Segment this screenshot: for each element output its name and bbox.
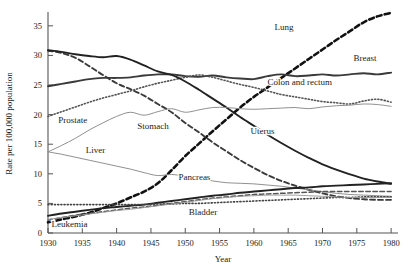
y-axis-title: Rate per 100,000 population — [4, 72, 14, 175]
cancer-mortality-chart: 0510152025303519301935194019451950195519… — [0, 0, 409, 269]
x-tick-label: 1950 — [177, 238, 194, 248]
x-tick-label: 1960 — [245, 238, 262, 248]
series-line-other-gray-lower — [48, 195, 391, 219]
x-tick-label: 1980 — [383, 238, 400, 248]
series-label-colon-and-rectum: Colon and rectum — [268, 77, 333, 87]
chart-canvas: 0510152025303519301935194019451950195519… — [0, 0, 409, 269]
x-tick-label: 1975 — [348, 238, 365, 248]
y-tick-label: 15 — [34, 139, 43, 149]
y-tick-label: 10 — [34, 169, 43, 179]
y-tick-label: 35 — [34, 21, 43, 31]
y-tick-label: 30 — [34, 50, 43, 60]
series-label-bladder: Bladder — [189, 207, 218, 217]
x-tick-label: 1940 — [108, 238, 125, 248]
series-label-stomach: Stomach — [137, 121, 169, 131]
x-axis-title: Year — [215, 254, 232, 264]
x-tick-label: 1935 — [74, 238, 91, 248]
series-label-leukemia: Leukemia — [51, 219, 87, 229]
y-tick-label: 25 — [34, 80, 43, 90]
series-label-breast: Breast — [353, 53, 376, 63]
series-line-uterus — [48, 50, 391, 184]
series-lines — [48, 13, 391, 223]
series-label-prostate: Prostate — [58, 115, 87, 125]
x-tick-label: 1970 — [314, 238, 331, 248]
x-tick-label: 1955 — [211, 238, 228, 248]
series-label-lung: Lung — [274, 22, 293, 32]
series-label-uterus: Uterus — [250, 126, 274, 136]
series-label-pancreas: Pancreas — [178, 172, 210, 182]
series-line-colon-and-rectum — [48, 75, 391, 116]
series-line-breast — [48, 73, 391, 87]
x-tick-label: 1945 — [142, 238, 159, 248]
series-label-liver: Liver — [86, 145, 106, 155]
series-line-liver — [48, 152, 391, 196]
y-tick-label: 20 — [34, 110, 43, 120]
x-tick-label: 1930 — [40, 238, 57, 248]
y-tick-label: 5 — [38, 198, 42, 208]
x-tick-label: 1965 — [280, 238, 297, 248]
y-tick-label: 0 — [38, 228, 42, 238]
series-line-pancreas — [48, 183, 391, 216]
